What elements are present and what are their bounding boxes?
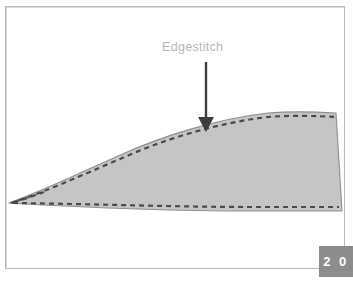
fabric-shape	[9, 112, 342, 211]
edgestitch-label: Edgestitch	[162, 40, 282, 54]
page-canvas: Edgestitch 2 0	[0, 0, 353, 281]
page-number-badge: 2 0	[319, 246, 353, 277]
